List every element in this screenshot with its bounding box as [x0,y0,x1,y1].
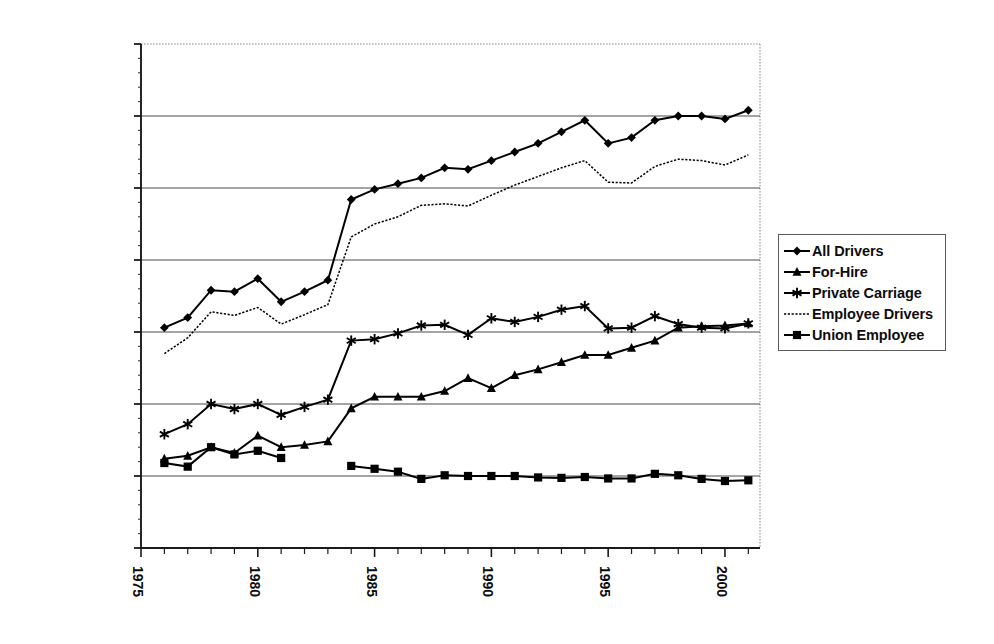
private-carriage-marker-13 [464,330,473,340]
union-employee-marker-10 [394,468,402,476]
x-axis-label-1985: 1985 [364,566,380,597]
all-drivers-marker-11 [417,174,426,183]
union-employee-marker-5 [277,454,285,462]
for-hire-marker-21 [650,336,659,345]
union-employee-marker-1 [184,463,192,471]
all-drivers-marker-17 [557,127,566,136]
legend-item-all-drivers[interactable]: All Drivers [782,240,941,261]
union-employee-marker-2 [207,443,215,451]
legend-key-square [782,326,812,344]
all-drivers-marker-10 [394,179,403,188]
union-employee-marker-21 [651,470,659,478]
chart-page: 0500,0001,000,0001,500,0002,000,0002,500… [0,0,994,644]
all-drivers-marker-0 [160,323,169,332]
union-employee-marker-14 [487,472,495,480]
all-drivers-marker-15 [510,148,519,157]
union-employee-marker-19 [604,474,612,482]
series-for-hire [160,318,753,462]
union-employee-marker-16 [534,473,542,481]
series-line [164,323,748,458]
union-employee-marker-17 [557,474,565,482]
legend-label: For-Hire [812,264,868,280]
all-drivers-marker-7 [323,276,332,285]
union-employee-marker-11 [417,475,425,483]
union-employee-marker-20 [627,474,635,482]
series-line [164,110,748,328]
for-hire-marker-13 [464,373,473,382]
x-axis-label-1990: 1990 [480,566,496,597]
union-employee-marker-18 [581,473,589,481]
x-axis-label-2000: 2000 [714,566,730,597]
series-private-carriage [160,301,753,440]
union-employee-marker-15 [511,472,519,480]
union-employee-marker-13 [464,472,472,480]
x-axis-label-1975: 1975 [130,566,146,597]
legend-item-for-hire[interactable]: For-Hire [782,261,941,282]
private-carriage-marker-21 [650,311,659,321]
union-employee-marker-12 [441,471,449,479]
all-drivers-marker-23 [697,112,706,121]
x-axis-label-1980: 1980 [247,566,263,597]
series-line [164,155,748,354]
union-employee-marker-4 [254,447,262,455]
legend-item-private-carriage[interactable]: Private Carriage [782,282,941,303]
union-employee-marker-22 [674,471,682,479]
x-axis-tick-labels: 197519801985199019952000 [0,560,994,644]
for-hire-marker-4 [253,431,262,440]
legend-key-star [782,284,812,302]
legend-label: Private Carriage [812,285,922,301]
legend-label: Union Employee [812,327,924,343]
legend-item-employee-drivers[interactable]: Employee Drivers [782,303,941,324]
private-carriage-marker-0 [160,429,169,439]
union-employee-marker-0 [160,459,168,467]
x-axis-label-1995: 1995 [597,566,613,597]
series-line [351,466,748,481]
all-drivers-marker-legend [793,246,802,255]
legend-key-dotted-line [782,305,812,323]
series-line [164,306,748,434]
legend-key-diamond [782,242,812,260]
union-employee-marker-23 [698,475,706,483]
series-all-drivers [160,106,753,332]
all-drivers-marker-14 [487,156,496,165]
union-employee-marker-8 [347,462,355,470]
union-employee-marker-legend [793,330,801,338]
all-drivers-marker-6 [300,287,309,296]
legend-label: Employee Drivers [812,306,933,322]
all-drivers-marker-13 [464,165,473,174]
all-drivers-marker-22 [674,112,683,121]
legend-item-union-employee[interactable]: Union Employee [782,324,941,345]
all-drivers-marker-3 [230,287,239,296]
legend-key-triangle [782,263,812,281]
union-employee-marker-3 [230,450,238,458]
union-employee-marker-25 [744,476,752,484]
all-drivers-marker-8 [347,195,356,204]
series-employee-drivers [164,155,748,354]
all-drivers-marker-12 [440,163,449,172]
union-employee-marker-24 [721,477,729,485]
chart-legend: All DriversFor-HirePrivate CarriageEmplo… [778,234,946,351]
all-drivers-marker-25 [744,106,753,115]
all-drivers-marker-9 [370,185,379,194]
legend-label: All Drivers [812,243,883,259]
for-hire-marker-12 [440,386,449,395]
union-employee-marker-9 [370,465,378,473]
series-union-employee [160,443,752,485]
all-drivers-marker-16 [534,139,543,148]
